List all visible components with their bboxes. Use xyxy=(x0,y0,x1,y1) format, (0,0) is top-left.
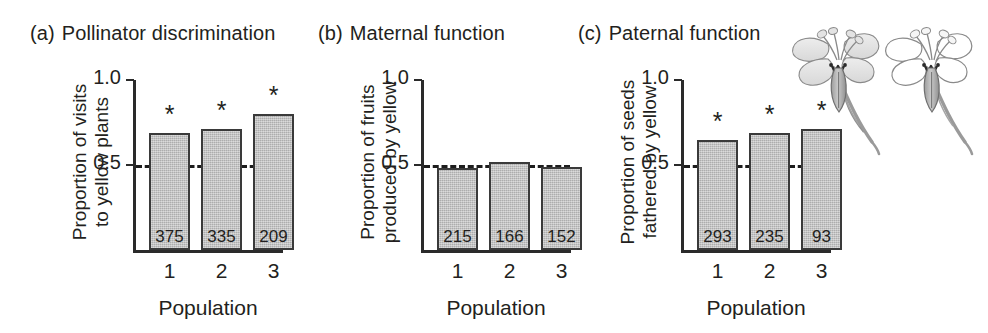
panel-title-text: Pollinator discrimination xyxy=(62,22,276,44)
x-tick-label: 3 xyxy=(801,259,842,283)
bar-sample-size: 209 xyxy=(255,227,292,246)
panel-title-text: Maternal function xyxy=(350,22,505,44)
y-tick-label: 1.0 xyxy=(363,66,409,89)
x-tick-label: 2 xyxy=(489,259,530,283)
bar-sample-size: 293 xyxy=(699,227,736,246)
x-tick-label: 1 xyxy=(149,259,190,283)
panel-letter-label: (c) xyxy=(578,22,602,44)
panel-title: (b)Maternal function xyxy=(318,22,505,45)
significance-asterisk: * xyxy=(201,103,242,117)
x-axis-line xyxy=(681,250,831,253)
bar-sample-size: 235 xyxy=(751,227,788,246)
bar: 209 xyxy=(253,114,294,250)
flower-white-morph xyxy=(886,27,972,154)
bar-sample-size: 335 xyxy=(203,227,240,246)
x-tick-label: 2 xyxy=(749,259,790,283)
significance-asterisk: * xyxy=(149,107,190,121)
x-axis-label: Population xyxy=(421,296,571,320)
flower-yellow-morph xyxy=(793,27,879,154)
y-tick-label: 1.0 xyxy=(75,66,121,89)
x-axis-line xyxy=(133,250,283,253)
panel-title: (c)Paternal function xyxy=(578,22,760,45)
y-tick-mark xyxy=(126,164,134,166)
x-axis-label: Population xyxy=(681,296,831,320)
bar-sample-size: 215 xyxy=(439,227,476,246)
y-tick-label: 0.5 xyxy=(363,151,409,174)
x-tick-label: 1 xyxy=(437,259,478,283)
y-tick-mark xyxy=(674,164,682,166)
bar-sample-size: 166 xyxy=(491,227,528,246)
significance-asterisk: * xyxy=(749,107,790,121)
y-tick-label: 0.5 xyxy=(75,151,121,174)
panel-b: (b)Maternal functionProportion of fruits… xyxy=(318,0,611,333)
bar: 235 xyxy=(749,133,790,250)
y-tick-mark xyxy=(674,79,682,81)
panel-letter-label: (b) xyxy=(318,22,343,44)
y-tick-mark xyxy=(414,79,422,81)
y-tick-label: 1.0 xyxy=(623,66,669,89)
y-tick-mark xyxy=(414,164,422,166)
flower-illustrations-svg xyxy=(790,14,988,174)
panel-title-text: Paternal function xyxy=(609,22,761,44)
x-tick-label: 3 xyxy=(253,259,294,283)
bar-sample-size: 93 xyxy=(803,227,840,246)
panel-title: (a)Pollinator discrimination xyxy=(30,22,275,45)
bar-sample-size: 375 xyxy=(151,227,188,246)
x-tick-label: 1 xyxy=(697,259,738,283)
significance-asterisk: * xyxy=(697,114,738,128)
flower-illustrations xyxy=(790,14,988,174)
panel-letter-label: (a) xyxy=(30,22,55,44)
x-tick-label: 3 xyxy=(541,259,582,283)
y-tick-label: 0.5 xyxy=(623,151,669,174)
x-axis-label: Population xyxy=(133,296,283,320)
bar: 152 xyxy=(541,167,582,250)
bar: 335 xyxy=(201,129,242,250)
bar: 293 xyxy=(697,140,738,251)
bar-sample-size: 152 xyxy=(543,227,580,246)
y-tick-mark xyxy=(126,79,134,81)
bar: 375 xyxy=(149,133,190,250)
x-axis-line xyxy=(421,250,571,253)
bar: 166 xyxy=(489,162,530,250)
bar: 215 xyxy=(437,168,478,250)
significance-asterisk: * xyxy=(253,88,294,102)
panel-a: (a)Pollinator discriminationProportion o… xyxy=(30,0,323,333)
x-tick-label: 2 xyxy=(201,259,242,283)
